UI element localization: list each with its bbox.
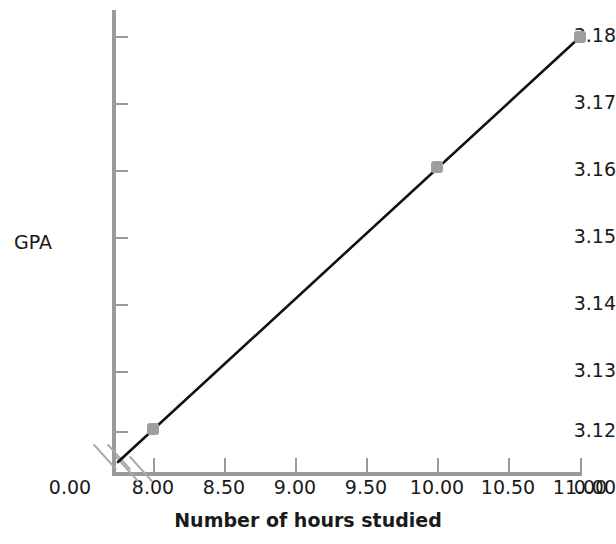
data-line <box>118 37 580 462</box>
gpa-vs-hours-line-chart: 3.18 3.17 3.16 3.15 3.14 3.13 3.12 0.00 … <box>0 0 616 544</box>
y-axis-title: GPA <box>14 231 52 253</box>
data-point-marker-11-00 <box>574 31 586 43</box>
data-point-marker-10-00 <box>431 161 443 173</box>
data-point-marker-8-00 <box>147 423 159 435</box>
plot-area <box>0 0 616 544</box>
x-axis-title: Number of hours studied <box>0 509 616 531</box>
